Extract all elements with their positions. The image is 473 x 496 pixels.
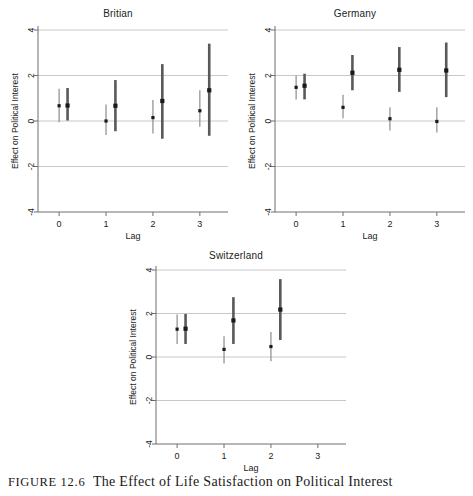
y-tick-label: 4 <box>26 27 36 32</box>
y-tick-label: -4 <box>263 208 273 216</box>
data-point-marker <box>295 86 298 89</box>
figure-caption: FIGURE 12.6 The Effect of Life Satisfact… <box>8 474 468 490</box>
data-point-marker <box>160 99 164 103</box>
data-point-marker <box>231 318 235 322</box>
x-tick-label: 2 <box>387 219 392 229</box>
data-point-marker <box>269 345 272 348</box>
data-point-marker <box>388 117 391 120</box>
y-tick-label: 4 <box>263 27 273 32</box>
data-point-marker <box>183 327 187 331</box>
data-point-marker <box>341 106 344 109</box>
caption-number: 12.6 <box>60 475 85 489</box>
data-point-marker <box>397 68 401 72</box>
y-tick-label: -4 <box>144 440 154 448</box>
figure-container: Britian 420-2-40123LagEffect on Politica… <box>0 0 473 496</box>
y-axis-title: Effect on Political Interest <box>10 72 20 168</box>
x-tick-label: 3 <box>197 219 202 229</box>
data-point-marker <box>435 120 438 123</box>
x-tick-label: 3 <box>315 451 320 461</box>
y-tick-label: 0 <box>144 354 154 359</box>
data-point-marker <box>58 104 61 107</box>
x-tick-label: 2 <box>150 219 155 229</box>
data-point-marker <box>222 348 225 351</box>
panel-britian: Britian 420-2-40123LagEffect on Politica… <box>0 8 236 248</box>
y-tick-label: -2 <box>26 162 36 170</box>
x-tick-label: 2 <box>268 451 273 461</box>
x-tick-label: 1 <box>104 219 109 229</box>
x-tick-label: 0 <box>294 219 299 229</box>
data-point-marker <box>302 84 306 88</box>
plot-britian: 420-2-40123LagEffect on Political Intere… <box>0 8 236 248</box>
data-point-marker <box>350 71 354 75</box>
y-tick-label: 4 <box>144 267 154 272</box>
data-point-marker <box>65 103 69 107</box>
y-tick-label: -2 <box>144 396 154 404</box>
data-point-marker <box>207 88 211 92</box>
y-axis-title: Effect on Political Interest <box>247 72 257 168</box>
y-tick-label: -4 <box>26 208 36 216</box>
y-tick-label: 0 <box>263 118 273 123</box>
x-tick-label: 0 <box>175 451 180 461</box>
x-axis-title: Lag <box>243 463 258 473</box>
caption-label: FIGURE <box>8 475 60 489</box>
data-point-marker <box>151 116 154 119</box>
plot-switzerland: 420-2-40123LagEffect on Political Intere… <box>118 250 354 478</box>
data-point-marker <box>198 109 201 112</box>
y-axis-title: Effect on Political Interest <box>128 308 138 404</box>
data-point-marker <box>113 104 117 108</box>
y-tick-label: 2 <box>144 311 154 316</box>
caption-text: The Effect of Life Satisfaction on Polit… <box>93 474 393 489</box>
y-tick-label: 2 <box>26 73 36 78</box>
y-tick-label: -2 <box>263 162 273 170</box>
x-tick-label: 0 <box>57 219 62 229</box>
y-tick-label: 0 <box>26 118 36 123</box>
x-tick-label: 1 <box>222 451 227 461</box>
data-point-marker <box>104 119 107 122</box>
data-point-marker <box>278 307 282 311</box>
data-point-marker <box>176 328 179 331</box>
x-axis-title: Lag <box>125 231 140 241</box>
panel-switzerland: Switzerland 420-2-40123LagEffect on Poli… <box>118 250 354 478</box>
y-tick-label: 2 <box>263 73 273 78</box>
x-tick-label: 3 <box>434 219 439 229</box>
data-point-marker <box>444 68 448 72</box>
plot-germany: 420-2-40123LagEffect on Political Intere… <box>237 8 473 248</box>
panel-germany: Germany 420-2-40123LagEffect on Politica… <box>237 8 473 248</box>
x-axis-title: Lag <box>362 231 377 241</box>
x-tick-label: 1 <box>341 219 346 229</box>
